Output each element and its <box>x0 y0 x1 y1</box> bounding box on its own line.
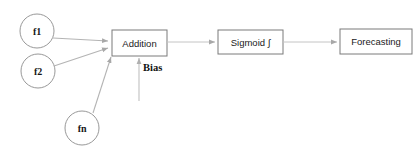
input-node-fn-hitbox[interactable] <box>65 111 99 145</box>
edge-fn-to-addition <box>93 57 111 113</box>
block-sigmoid-hitbox[interactable] <box>218 30 283 54</box>
input-node-f2-hitbox[interactable] <box>21 54 55 88</box>
edge-f1-to-addition <box>53 38 108 41</box>
edge-f2-to-addition <box>54 48 108 66</box>
diagram-canvas: f1 f2 fn Addition Sigmoid ∫ Forecasting … <box>0 0 420 151</box>
diagram-vector-layer <box>0 0 420 151</box>
block-addition-hitbox[interactable] <box>112 30 167 56</box>
block-forecasting-hitbox[interactable] <box>340 29 412 54</box>
input-node-f1-hitbox[interactable] <box>20 14 54 48</box>
